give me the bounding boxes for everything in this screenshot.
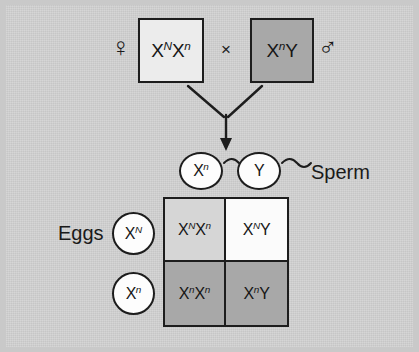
mother-genotype-box: XNXn [138,18,204,83]
cell2-allele-2: X [195,285,205,302]
cell0-allele-1: X [178,221,188,238]
mother-genotype-label: XNXn [151,39,190,62]
cell3-allele-2: Y [259,285,269,302]
egg-bottom-label: Xn [126,284,142,303]
punnett-square-figure: ♀ XNXn × XnY ♂ Xn Y Sperm Eggs XN Xn XNX… [0,0,419,352]
punnett-cell-bottom-right: XnY [226,262,287,325]
cell3-allele-1: X [244,285,254,302]
eggs-label: Eggs [58,222,104,245]
father-allele-2: Y [285,40,297,61]
mother-allele-1: X [151,40,163,61]
punnett-cell-bottom-right-label: XnY [244,284,270,303]
punnett-cell-bottom-left: XnXn [165,262,226,325]
mother-sup-2: n [184,39,191,52]
punnett-cell-top-left: XNXn [165,199,226,262]
sperm-y-allele: Y [254,162,264,179]
egg-top-allele: X [125,225,135,242]
mother-sup-1: N [163,39,172,52]
punnett-cell-top-right-label: XNY [243,220,271,239]
sperm-xn-sup: n [203,161,209,172]
mother-allele-2: X [172,40,184,61]
punnett-cell-bottom-left-label: XnXn [179,284,210,303]
cell2-allele-1: X [179,285,189,302]
male-sex-symbol: ♂ [318,34,338,60]
egg-top-sup: N [135,224,142,235]
female-sex-symbol: ♀ [111,34,131,60]
father-genotype-label: XnY [267,39,298,62]
sperm-label: Sperm [311,161,370,184]
father-allele-1: X [267,40,279,61]
sperm-xn-label: Xn [193,161,209,180]
punnett-cell-top-left-label: XNXn [178,220,211,239]
punnett-square-grid: XNXn XNY XnXn XnY [163,197,289,327]
cell0-sup-2: n [205,220,211,231]
cell2-sup-2: n [205,284,211,295]
egg-gamete-xn-dominant: XN [112,212,155,255]
sperm-xn-allele: X [193,163,203,180]
egg-bottom-allele: X [126,285,136,302]
cell1-allele-1: X [243,221,253,238]
father-genotype-box: XnY [250,18,314,83]
cell0-allele-2: X [195,221,205,238]
egg-gamete-xn-recessive: Xn [112,272,155,315]
sperm-y-label: Y [254,162,264,180]
cell1-allele-2: Y [260,221,270,238]
egg-top-label: XN [125,224,142,243]
punnett-cell-top-right: XNY [226,199,287,262]
egg-bottom-sup: n [136,284,142,295]
cross-symbol: × [215,40,237,60]
sperm-gamete-y: Y [237,152,281,190]
sperm-gamete-xn: Xn [179,152,223,190]
cell1-sup-1: N [253,220,260,231]
